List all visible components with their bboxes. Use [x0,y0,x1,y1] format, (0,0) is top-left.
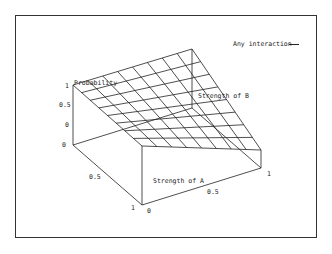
z-tick-1: 1 [65,83,69,90]
mesh-line [177,54,246,150]
mesh-line [142,146,261,150]
mesh-line [116,112,235,123]
a-tick-0: 0 [147,208,151,215]
mesh-line [125,125,244,131]
z-tick-bottom: 0 [62,142,66,149]
mesh-line [133,137,252,138]
x-axis-label: Strength of A [153,178,204,185]
y-axis-label: Strength of B [198,93,249,100]
z-axis-label: Probability [74,80,117,87]
surface-plot [0,0,332,254]
b-tick-0-5: 0.5 [89,174,101,181]
a-tick-0-5: 0.5 [207,189,219,196]
b-tick-1: 1 [131,205,135,212]
mesh-line [162,58,231,149]
mesh-line [147,63,216,149]
z-tick-0: 0 [65,122,69,129]
mesh-line [108,100,227,116]
z-tick-0-5: 0.5 [59,102,71,109]
a-tick-1: 1 [267,171,271,178]
legend-label: Any interaction [233,41,292,48]
legend-line-swatch [289,44,299,45]
